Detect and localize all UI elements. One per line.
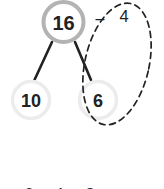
part-right-value: 6 — [93, 91, 103, 111]
number-bond-worksheet: 16 10 6 – 4 6 – 4 = 2 10 + 2 = 12 — [0, 0, 164, 189]
part-left-value: 10 — [21, 91, 41, 111]
whole-value: 16 — [52, 12, 74, 34]
equations-block: 6 – 4 = 2 10 + 2 = 12 — [24, 140, 116, 189]
subtrahend-value: 4 — [119, 7, 128, 25]
branch-line-left — [34, 42, 52, 81]
equation-1: 6 – 4 = 2 — [24, 184, 116, 189]
minus-operator: – — [96, 10, 105, 27]
number-bond-diagram: 16 10 6 – 4 — [0, 0, 164, 138]
